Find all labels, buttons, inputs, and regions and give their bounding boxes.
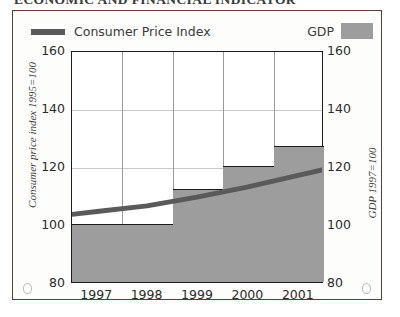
- legend-label-cpi: Consumer Price Index: [74, 24, 211, 39]
- legend-swatch-box-icon: [341, 23, 373, 39]
- plot-area: [71, 51, 323, 283]
- legend-label-gdp: GDP: [307, 24, 334, 39]
- y-tick-label-right: 160: [327, 45, 367, 58]
- punch-hole-left-icon: [23, 283, 32, 294]
- x-tick-label-2001: 2001: [273, 287, 323, 302]
- chart-legend: Consumer Price Index GDP: [13, 15, 383, 41]
- y-tick-label-right: 80: [327, 277, 367, 290]
- y-axis-title-right: GDP 1997=100: [366, 118, 378, 248]
- y-tick-label-right: 100: [327, 219, 367, 232]
- punch-hole-right-icon: [362, 283, 371, 294]
- legend-swatch-line-icon: [31, 29, 65, 35]
- page-title: ECONOMIC AND FINANCIAL INDICATOR: [0, 0, 400, 9]
- legend-item-gdp: GDP: [307, 23, 373, 39]
- y-tick-label-right: 120: [327, 161, 367, 174]
- y-tick-label-left: 120: [25, 161, 65, 174]
- y-tick-label-left: 140: [25, 103, 65, 116]
- chart-figure: Consumer Price Index GDP Consumer price …: [12, 10, 382, 300]
- y-tick-label-left: 100: [25, 219, 65, 232]
- y-axis-title-left: Consumer price index 1995=100: [26, 50, 38, 220]
- x-tick-label-1997: 1997: [71, 287, 121, 302]
- y-tick-label-right: 140: [327, 103, 367, 116]
- x-tick-label-2000: 2000: [222, 287, 272, 302]
- line-series-cpi: [72, 52, 322, 282]
- x-tick-label-1999: 1999: [172, 287, 222, 302]
- y-tick-label-left: 160: [25, 45, 65, 58]
- x-tick-label-1998: 1998: [121, 287, 171, 302]
- legend-item-cpi: Consumer Price Index: [31, 24, 211, 39]
- page-title-text: ECONOMIC AND FINANCIAL INDICATOR: [14, 0, 296, 8]
